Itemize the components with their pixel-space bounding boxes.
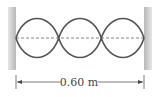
wave-lower — [16, 38, 144, 58]
arrowhead-right-icon — [138, 80, 143, 84]
right-wall — [144, 7, 152, 70]
length-label: 0.60 m — [60, 76, 99, 89]
standing-wave-diagram: 0.60 m — [0, 0, 159, 97]
arrowhead-left-icon — [17, 80, 22, 84]
left-wall — [8, 7, 16, 70]
wave-upper — [16, 19, 144, 39]
